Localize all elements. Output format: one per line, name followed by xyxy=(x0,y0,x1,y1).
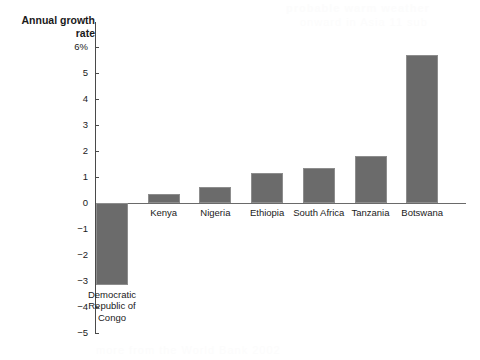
y-axis-tick-label: 4 xyxy=(52,94,88,104)
y-axis-tick-label: 3 xyxy=(52,120,88,130)
page-bleedthrough-text-bottom: more from the World Bank 2002 xyxy=(96,344,281,356)
bar-chart: probable warm weather onward in Asia 11 … xyxy=(0,0,480,360)
y-axis-tick-label: −3 xyxy=(52,276,88,286)
bar xyxy=(251,173,283,203)
y-axis-tick-label: −1 xyxy=(52,224,88,234)
y-axis-tick-label: 2 xyxy=(52,146,88,156)
y-axis-title: Annual growth rate xyxy=(0,14,95,39)
y-axis-tick-label: 6% xyxy=(52,42,88,52)
page-bleedthrough-text-top: probable warm weather xyxy=(286,2,430,14)
y-axis-tick-mark xyxy=(95,333,99,334)
y-axis-tick-mark xyxy=(95,47,99,48)
zero-baseline xyxy=(95,203,466,204)
y-axis-tick-label: −5 xyxy=(52,328,88,338)
bar xyxy=(303,168,335,203)
y-axis-tick-mark xyxy=(95,177,99,178)
bar xyxy=(199,187,231,203)
y-axis-tick-mark xyxy=(95,99,99,100)
y-axis-tick-label: −2 xyxy=(52,250,88,260)
y-axis-tick-mark xyxy=(95,151,99,152)
y-axis-tick-mark xyxy=(95,125,99,126)
y-axis-tick-label: 5 xyxy=(52,68,88,78)
bar xyxy=(355,156,387,203)
bar xyxy=(406,55,438,203)
y-axis-tick-mark xyxy=(95,73,99,74)
bar xyxy=(148,194,180,203)
category-label: Democratic Republic of Congo xyxy=(74,289,150,324)
bar xyxy=(96,203,128,285)
y-axis-tick-label: 1 xyxy=(52,172,88,182)
y-axis-line xyxy=(95,22,96,334)
page-bleedthrough-text-second: onward in Asia 11 sub xyxy=(300,16,428,28)
category-label: Botswana xyxy=(384,207,460,219)
y-axis-tick-label: 0 xyxy=(52,198,88,208)
